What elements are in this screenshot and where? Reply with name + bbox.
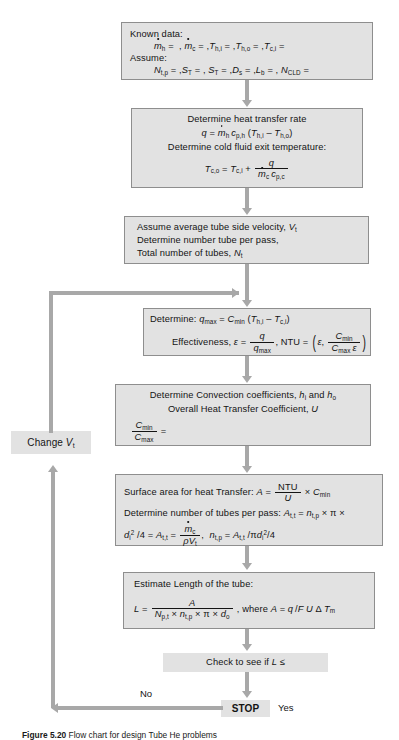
heat-rate-line-2: q = mh cp,h (Th,i – Th,o) — [138, 128, 356, 140]
known-data-line-3: Assume: — [130, 53, 364, 65]
convection-line-2: Overall Heat Transfer Coefficient, U — [122, 404, 364, 416]
convection-line-3: CminCmax = — [122, 420, 364, 443]
connector-velocity-to-qmax — [245, 264, 249, 302]
assume-velocity-line-2: Determine number tube per pass, — [137, 235, 362, 247]
node-surface-area: Surface area for heat Transfer: A = NTUU… — [115, 474, 383, 546]
node-convection-coefficients: Determine Convection coefficients, hi an… — [115, 384, 371, 446]
surface-area-line-1: Surface area for heat Transfer: A = NTUU… — [124, 482, 378, 504]
arrow-qmax-to-convection — [242, 376, 252, 383]
qmax-line-1: Determine: qmax = Cmin (Th,i – Tc,i) — [150, 314, 364, 326]
flowchart-canvas: Known data: mh = , mc = ,Th,i = ,Th,o = … — [0, 0, 399, 740]
node-determine-qmax: Determine: qmax = Cmin (Th,i – Tc,i) Eff… — [143, 308, 371, 356]
estimate-length-line-2: L = ANp,t × nt,p × π × do , where A = q … — [134, 598, 368, 620]
arrow-convection-to-surface — [242, 466, 252, 473]
node-heat-transfer-rate: Determine heat transfer rate q = mh cp,h… — [131, 108, 363, 188]
arrow-feedback-rejoin — [232, 288, 239, 298]
heat-rate-line-3: Determine cold fluid exit temperature: — [138, 142, 356, 154]
assume-velocity-line-1: Assume average tube side velocity, Vt — [137, 222, 362, 234]
qmax-line-2: Effectiveness, ε = qqmax, NTU = (ε, Cmin… — [150, 331, 364, 354]
figure-caption-text: Flow chart for design Tube He problems — [69, 730, 218, 740]
surface-area-line-2: Determine number of tubes per pass: At,t… — [124, 508, 378, 520]
feedback-no-vertical — [51, 472, 55, 708]
figure-caption: Figure 5.20 Flow chart for design Tube H… — [22, 730, 217, 740]
known-data-line-4: Nt,p = ,ST = , ST = ,Ds = ,Lb = , NCLD = — [130, 65, 364, 77]
figure-caption-label: Figure 5.20 — [22, 730, 66, 740]
arrow-length-to-check — [242, 644, 252, 651]
connector-qmax-to-convection — [245, 356, 249, 378]
assume-velocity-line-3: Total number of tubes, Nt — [137, 248, 362, 260]
arrow-surface-to-length — [242, 563, 252, 570]
stop-text: STOP — [221, 703, 270, 716]
known-data-line-1: Known data: — [130, 29, 364, 41]
connector-heatrate-to-velocity — [245, 188, 249, 210]
node-known-data: Known data: mh = , mc = ,Th,i = ,Th,o = … — [121, 22, 373, 80]
surface-area-line-3: di2 /4 = At,t = mcρVt, nt,p = At,t /πdi2… — [124, 524, 378, 547]
node-stop: STOP — [221, 700, 270, 717]
feedback-no-horizontal — [58, 706, 223, 710]
node-change-vt: Change Vt — [11, 431, 91, 454]
node-check-length: Check to see if L ≤ — [163, 653, 328, 672]
node-estimate-length: Estimate Length of the tube: L = ANp,t ×… — [123, 572, 375, 629]
arrow-known-to-heatrate — [242, 100, 252, 107]
feedback-change-vt-vertical — [49, 291, 53, 433]
check-length-text: Check to see if L ≤ — [163, 657, 328, 669]
known-data-line-2: mh = , mc = ,Th,i = ,Th,o = ,Tc,i = — [130, 41, 364, 53]
connector-convection-to-surface — [245, 446, 249, 468]
edge-label-no: No — [140, 688, 152, 699]
arrow-velocity-to-qmax — [242, 300, 252, 307]
connector-known-to-heatrate — [245, 80, 249, 102]
node-assume-velocity: Assume average tube side velocity, Vt De… — [124, 216, 369, 264]
arrow-check-to-stop — [242, 691, 252, 698]
convection-line-1: Determine Convection coefficients, hi an… — [122, 390, 364, 402]
feedback-change-vt-horizontal — [49, 291, 239, 295]
estimate-length-line-1: Estimate Length of the tube: — [134, 579, 368, 591]
heat-rate-line-4: Tc,o = Tc,i + qmc cp,c — [138, 158, 356, 180]
edge-label-yes: Yes — [278, 702, 294, 713]
arrow-heatrate-to-velocity — [242, 208, 252, 215]
change-vt-text: Change Vt — [11, 437, 91, 451]
arrow-feedback-into-change-vt — [48, 465, 58, 472]
heat-rate-line-1: Determine heat transfer rate — [138, 114, 356, 126]
